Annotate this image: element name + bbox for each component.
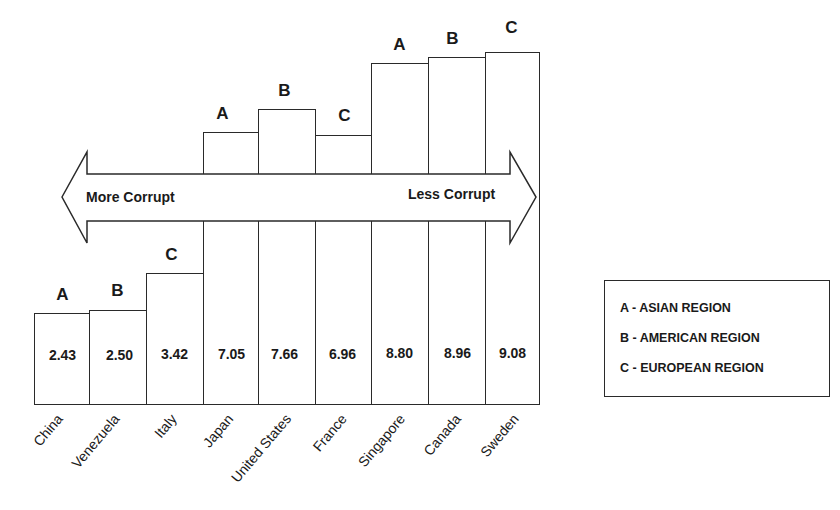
region-code: A [194, 104, 251, 124]
value-label: 2.43 [34, 347, 91, 363]
value-label: 8.80 [371, 345, 428, 361]
legend-item-asian: A - ASIAN REGION [620, 301, 731, 315]
chart-canvas: More Corrupt Less Corrupt A B C A B C A … [0, 0, 840, 510]
value-label: 8.96 [429, 345, 486, 361]
region-code: B [256, 81, 313, 101]
value-label: 7.66 [256, 346, 313, 362]
legend-item-european: C - EUROPEAN REGION [620, 361, 764, 375]
region-code: C [316, 106, 373, 126]
arrow-label-less-corrupt: Less Corrupt [408, 186, 495, 202]
value-label: 7.05 [203, 346, 260, 362]
region-code: A [34, 285, 91, 305]
value-label: 2.50 [91, 347, 148, 363]
value-label: 3.42 [146, 346, 203, 362]
region-code: C [483, 18, 540, 38]
legend-item-american: B - AMERICAN REGION [620, 331, 760, 345]
region-code: B [89, 281, 146, 301]
arrow-label-more-corrupt: More Corrupt [86, 189, 175, 205]
double-arrow-icon [0, 0, 840, 510]
value-label: 6.96 [314, 346, 371, 362]
value-label: 9.08 [484, 345, 541, 361]
region-code: A [371, 35, 428, 55]
region-code: B [424, 29, 481, 49]
region-code: C [143, 245, 200, 265]
legend-box: A - ASIAN REGION B - AMERICAN REGION C -… [604, 280, 830, 397]
